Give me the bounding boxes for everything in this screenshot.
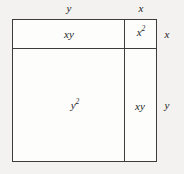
horizontal-divider-line	[12, 48, 157, 49]
cell-label-bottom-right-base: xy	[135, 100, 145, 112]
cell-label-top-left-base: xy	[64, 28, 74, 40]
dimension-label-right-top-height: x	[160, 29, 174, 40]
vertical-divider-line	[124, 19, 125, 162]
cell-label-bottom-left-exponent: 2	[76, 97, 80, 106]
cell-label-top-right: x2	[127, 27, 155, 38]
cell-label-bottom-left: y2	[58, 100, 92, 111]
dimension-label-top-left-width: y	[55, 3, 83, 14]
area-model-diagram: xy x2 y2 xy y x x y	[0, 0, 184, 174]
cell-label-top-right-exponent: 2	[142, 24, 146, 33]
dimension-label-top-right-width: x	[128, 3, 154, 14]
dimension-label-right-bottom-height: y	[160, 100, 174, 111]
area-model-outer-box	[12, 19, 157, 162]
cell-label-top-left: xy	[52, 29, 86, 40]
cell-label-bottom-right: xy	[126, 101, 154, 112]
